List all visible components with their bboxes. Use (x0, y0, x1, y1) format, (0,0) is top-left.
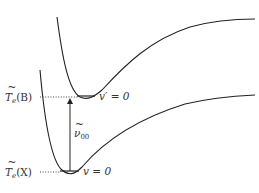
v-zero-label: v = 0 (83, 165, 111, 177)
te-b-tilde: ~ (8, 81, 17, 93)
v-prime-zero-label: v′ = 0 (99, 90, 130, 102)
potential-energy-diagram: Te(B) ~ Te(X) ~ v′ = 0 v = 0 ν00 ~ (0, 0, 259, 193)
te-x-label: Te(X) (5, 166, 32, 180)
te-b-label: Te(B) (5, 91, 32, 105)
lower-potential-curve (40, 70, 255, 174)
nu00-tilde: ~ (75, 118, 84, 130)
te-x-tilde: ~ (8, 156, 17, 168)
upper-potential-curve (57, 17, 255, 98)
